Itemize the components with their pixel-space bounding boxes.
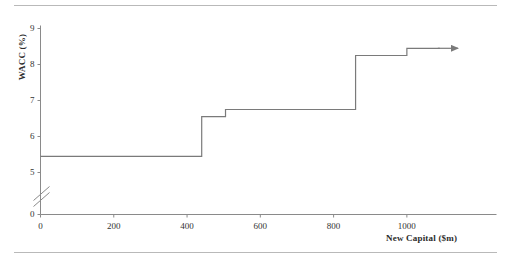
x-tick-label-1000: 1000 — [387, 222, 427, 231]
y-tick-label-6: 6 — [7, 132, 35, 141]
axes-group — [41, 26, 497, 215]
y-axis-break-marks — [34, 187, 50, 207]
step-line-series — [41, 48, 440, 156]
x-tick-label-400: 400 — [167, 222, 207, 231]
figure-container: WACC (%) New Capital ($m) 056789 0200400… — [0, 0, 511, 263]
y-tick-label-0: 0 — [7, 210, 35, 219]
x-tick-label-0: 0 — [21, 222, 61, 231]
x-tick-label-200: 200 — [94, 222, 134, 231]
y-tick-label-8: 8 — [7, 60, 35, 69]
y-tick-label-5: 5 — [7, 168, 35, 177]
x-tick-label-800: 800 — [314, 222, 354, 231]
y-tick-label-7: 7 — [7, 96, 35, 105]
x-tick-label-600: 600 — [240, 222, 280, 231]
axis-ticks-group — [38, 29, 407, 218]
y-tick-label-9: 9 — [7, 24, 35, 33]
